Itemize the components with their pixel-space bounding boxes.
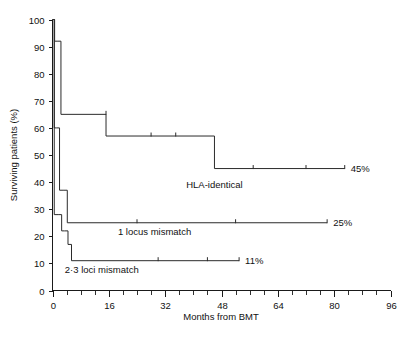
y-tick-label: 0 [39,286,44,297]
y-tick-label: 60 [34,123,45,134]
y-tick-label: 100 [29,15,45,26]
series-label: HLA-identical [186,179,243,190]
x-tick-label: 64 [273,300,284,311]
endpoint-percentage-label: 45% [351,163,371,174]
y-tick-label: 80 [34,69,45,80]
y-tick-label: 10 [34,258,45,269]
y-tick-label: 40 [34,177,45,188]
y-tick-label: 90 [34,42,45,53]
y-axis-tick-labels: 0102030405060708090100 [29,15,45,297]
y-tick-label: 20 [34,231,45,242]
endpoint-labels-group: 45%25%11% [245,163,370,266]
survival-curve-1-locus-mismatch [53,20,328,223]
survival-curve-hla-identical [53,20,345,169]
x-tick-label: 32 [160,300,171,311]
x-tick-label: 48 [217,300,228,311]
x-tick-label: 80 [329,300,340,311]
axes-group [53,20,391,291]
series-label: 1 locus mismatch [118,226,191,237]
endpoint-percentage-label: 11% [245,255,264,266]
x-axis-title: Months from BMT [183,311,259,322]
y-tick-label: 30 [34,204,45,215]
y-axis-title: Surviving patients (%) [8,109,19,201]
x-tick-label: 16 [104,300,115,311]
y-tick-label: 70 [34,96,45,107]
y-tick-label: 50 [34,150,45,161]
survival-curves-group [53,20,345,261]
x-axis-major-ticks [54,291,392,297]
kaplan-meier-plot: 0102030405060708090100 0163248648096 HLA… [0,0,407,342]
series-label: 2·3 loci mismatch [65,264,139,275]
y-axis-ticks [49,21,53,292]
survival-curve-2-3-loci-mismatch [53,20,240,261]
x-tick-label: 0 [51,300,56,311]
x-axis-tick-labels: 0163248648096 [51,300,397,311]
endpoint-percentage-label: 25% [333,217,353,228]
x-tick-label: 96 [386,300,397,311]
survival-chart-figure: 0102030405060708090100 0163248648096 HLA… [0,0,407,342]
